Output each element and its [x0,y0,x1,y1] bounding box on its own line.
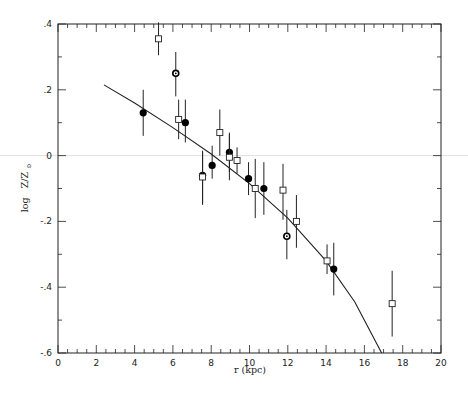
y-axis-label: log Z/Z ⊙ [19,164,32,212]
model-curve-path [104,85,382,353]
filled-circle-marker [330,266,337,273]
plot-border [58,24,441,353]
filled-circle-marker [209,162,216,169]
x-tick-label: 14 [320,358,332,368]
y-axis-label-prefix: log [19,197,30,212]
data-point [284,210,290,259]
data-point [182,100,189,143]
data-point [293,195,299,248]
y-tick-label: -.4 [40,282,52,292]
plot-frame [58,24,441,353]
data-point [226,134,232,180]
axis-ticks [58,24,441,353]
filled-circle-marker [182,119,189,126]
filled-circle-marker [260,185,267,192]
x-tick-label: 20 [435,358,447,368]
y-tick-label: .2 [43,85,52,95]
x-tick-label: 8 [208,358,214,368]
y-tick-label: -.2 [40,216,52,226]
y-tick-label: 0 [46,151,52,161]
open-square-marker [293,218,299,224]
dotted-circle-center [175,72,177,74]
y-tick-label: .4 [43,19,52,29]
x-axis-label: r (kpc) [234,364,266,375]
data-point [217,110,223,156]
open-square-marker [324,258,330,264]
data-point [209,146,216,179]
svg-text:log Z/Z ⊙: log Z/Z ⊙ [19,164,32,212]
filled-circle-marker [245,175,252,182]
open-square-marker [280,187,286,193]
open-square-marker [200,174,206,180]
x-tick-label: 4 [132,358,138,368]
data-point [156,22,162,55]
y-tick-label: -.6 [40,348,52,358]
data-point [260,162,267,215]
open-square-marker [234,158,240,164]
model-curve [104,85,382,353]
y-tick-labels: .4.20-.2-.4-.6 [40,19,52,358]
data-point [389,271,395,337]
y-axis-label-var: Z/Z [19,171,30,188]
x-tick-label: 12 [282,358,293,368]
y-axis-label-sub: ⊙ [25,164,32,169]
data-point [234,147,240,173]
open-square-marker [156,36,162,42]
open-square-marker [252,186,258,192]
open-square-marker [389,301,395,307]
data-point [245,162,252,195]
open-square-marker [217,130,223,136]
filled-circle-marker [140,109,147,116]
x-tick-label: 16 [359,358,371,368]
open-square-marker [226,154,232,160]
x-tick-label: 18 [397,358,409,368]
x-tick-label: 0 [55,358,61,368]
x-tick-label: 6 [170,358,176,368]
data-point [200,151,206,204]
data-point [173,52,179,96]
data-point [324,244,330,274]
open-square-marker [176,116,182,122]
x-tick-label: 2 [93,358,99,368]
data-point [330,243,337,296]
metallicity-gradient-chart: 02468101214161820 .4.20-.2-.4-.6 r (kpc)… [0,0,468,395]
data-points [140,22,396,336]
dotted-circle-center [286,235,288,237]
data-point [252,159,258,218]
data-point [140,90,147,136]
